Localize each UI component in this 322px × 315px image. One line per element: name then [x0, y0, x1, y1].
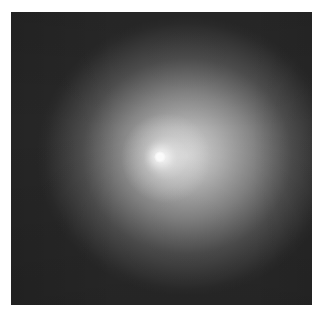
astronomical-photo: comet-like diffuse glow with bright nucl… [11, 12, 312, 305]
vignette [11, 12, 312, 305]
